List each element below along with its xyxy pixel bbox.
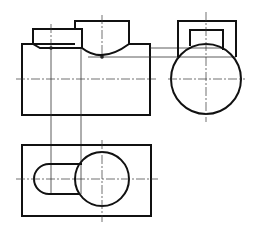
front-view [16, 15, 156, 115]
side-view [168, 12, 245, 122]
front-body-outline [22, 44, 150, 115]
technical-drawing [0, 0, 261, 237]
top-view [16, 140, 158, 222]
projection-lines [51, 48, 236, 194]
left-block-outline [33, 29, 82, 48]
top-body-outline [22, 145, 151, 216]
